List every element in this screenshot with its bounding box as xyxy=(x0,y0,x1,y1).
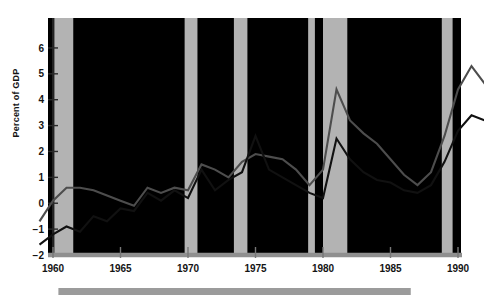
y-axis-tick-label: 3 xyxy=(38,120,44,131)
line-chart-svg: −2−101234561960196519701975198019851990 xyxy=(0,0,484,302)
x-axis-tick-label: 1975 xyxy=(244,263,267,274)
y-axis-tick-label: −2 xyxy=(33,250,45,261)
footer-rule xyxy=(58,288,410,295)
x-axis-tick-label: 1965 xyxy=(109,263,132,274)
x-axis-tick-label: 1970 xyxy=(177,263,200,274)
y-axis-tick-label: 4 xyxy=(38,94,44,105)
plot-area: −2−101234561960196519701975198019851990 xyxy=(0,0,484,302)
recession-band xyxy=(54,18,73,255)
x-axis-tick-label: 1990 xyxy=(447,263,470,274)
recession-band xyxy=(308,18,315,255)
y-axis-tick-label: 6 xyxy=(38,43,44,54)
x-axis-tick-label: 1960 xyxy=(42,263,65,274)
y-axis-tick-label: 5 xyxy=(38,68,44,79)
x-axis-tick-label: 1980 xyxy=(312,263,335,274)
chart-figure: Percent of GDP −2−1012345619601965197019… xyxy=(0,0,484,302)
recession-band xyxy=(185,18,198,255)
x-axis-tick-label: 1985 xyxy=(379,263,402,274)
recession-band xyxy=(323,18,347,255)
recession-band xyxy=(234,18,248,255)
y-axis-tick-label: 0 xyxy=(38,198,44,209)
y-axis-tick-label: 2 xyxy=(38,146,44,157)
y-axis-tick-label: −1 xyxy=(33,224,45,235)
y-axis-tick-label: 1 xyxy=(38,172,44,183)
